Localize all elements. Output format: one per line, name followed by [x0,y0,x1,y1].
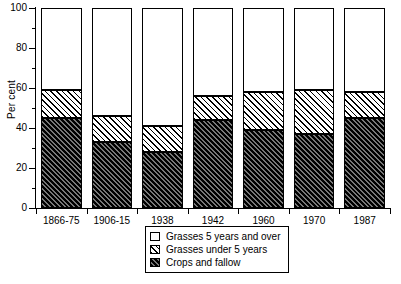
x-tick [289,209,290,214]
y-tick-label: 100 [1,3,27,13]
bar-segment-crops-and-fallow [142,152,182,208]
plot-area [36,8,390,208]
bar-1866-75 [41,8,81,208]
bar-segment-grasses-under-5-years [193,96,233,120]
y-tick-20 [29,168,36,169]
x-axis-line [29,208,391,209]
chart-legend: Grasses 5 years and overGrasses under 5 … [145,226,289,273]
y-axis-label: Per cent [6,70,17,130]
bar-segment-crops-and-fallow [344,118,384,208]
legend-swatch-icon [150,232,160,241]
x-tick [36,209,37,214]
y-tick-label-wrap: 20 [0,163,27,173]
bar-1970 [294,8,334,208]
legend-item: Grasses under 5 years [150,243,281,256]
bar-segment-grasses-5-years-and-over [142,8,182,126]
bar-segment-grasses-5-years-and-over [193,8,233,96]
y-tick-label: 40 [1,123,27,133]
legend-swatch-icon [150,245,160,254]
x-tick [238,209,239,214]
y-tick-100 [29,8,36,9]
chart-figure: Per cent 020406080100 1866-751906-151938… [0,0,401,284]
x-tick [87,209,88,214]
bar-segment-grasses-5-years-and-over [41,8,81,90]
bar-1987 [344,8,384,208]
y-tick-label-wrap: 100 [0,3,27,13]
x-tick-label-1942: 1942 [188,215,239,226]
y-tick-40 [29,128,36,129]
x-tick-label-1987: 1987 [339,215,390,226]
bar-segment-grasses-under-5-years [92,116,132,142]
legend-item: Grasses 5 years and over [150,230,281,243]
y-tick-80 [29,48,36,49]
y-tick-label: 60 [1,83,27,93]
bar-1938 [142,8,182,208]
legend-item: Crops and fallow [150,256,281,269]
y-tick-label-wrap: 40 [0,123,27,133]
bar-1906-15 [92,8,132,208]
y-tick-label: 80 [1,43,27,53]
bar-segment-crops-and-fallow [92,142,132,208]
bar-segment-grasses-5-years-and-over [294,8,334,90]
y-tick-label-wrap: 0 [0,203,27,213]
bar-segment-grasses-5-years-and-over [344,8,384,92]
legend-label: Grasses 5 years and over [166,231,281,242]
y-tick-label: 20 [1,163,27,173]
bar-segment-grasses-under-5-years [142,126,182,152]
y-tick-60 [29,88,36,89]
x-tick [390,209,391,214]
x-tick-label-1960: 1960 [238,215,289,226]
bar-segment-grasses-5-years-and-over [92,8,132,116]
y-tick-label: 0 [1,203,27,213]
bar-segment-grasses-under-5-years [41,90,81,118]
bar-segment-crops-and-fallow [243,130,283,208]
legend-label: Crops and fallow [166,257,240,268]
x-tick-label-1938: 1938 [137,215,188,226]
bar-1942 [193,8,233,208]
y-tick-label-wrap: 60 [0,83,27,93]
bar-segment-grasses-under-5-years [344,92,384,118]
bar-segment-grasses-under-5-years [243,92,283,130]
bar-segment-crops-and-fallow [193,120,233,208]
legend-swatch-icon [150,258,160,267]
bar-segment-grasses-under-5-years [294,90,334,134]
legend-label: Grasses under 5 years [166,244,267,255]
bar-segment-crops-and-fallow [294,134,334,208]
x-tick-label-1866-75: 1866-75 [36,215,87,226]
x-tick [339,209,340,214]
y-tick-label-wrap: 80 [0,43,27,53]
x-tick [137,209,138,214]
x-tick-label-1970: 1970 [289,215,340,226]
bar-segment-grasses-5-years-and-over [243,8,283,92]
y-tick-0 [29,208,36,209]
bar-1960 [243,8,283,208]
x-tick-label-1906-15: 1906-15 [87,215,138,226]
bar-segment-crops-and-fallow [41,118,81,208]
x-tick [188,209,189,214]
